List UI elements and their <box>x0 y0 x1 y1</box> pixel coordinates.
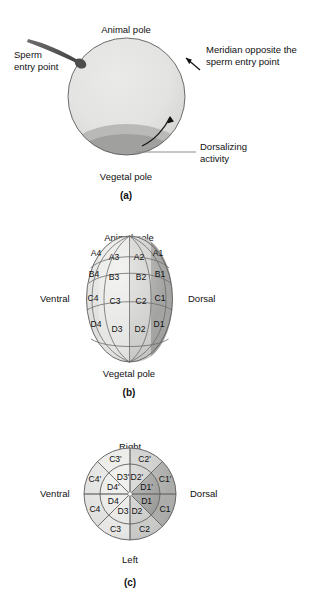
cell-label-c3p: C3' <box>109 454 122 464</box>
label-sperm-entry-line1: Sperm <box>14 49 42 60</box>
vegetal-view <box>84 448 176 540</box>
cell-label-c2: C2 <box>136 296 147 306</box>
cell-label-d3: D3 <box>112 324 123 334</box>
cell-label-a2: A2 <box>134 252 145 262</box>
cell-label-a3: A3 <box>109 252 120 262</box>
cell-label-b1: B1 <box>155 269 166 279</box>
label-sperm-entry-line2: entry point <box>14 61 59 72</box>
cell-label-d1: D1 <box>141 496 152 506</box>
cell-label-a1: A1 <box>153 248 164 258</box>
cell-label-d2: D2 <box>135 324 146 334</box>
cell-label-d3: D3 <box>118 506 129 516</box>
panel-b: Animal pole <box>40 232 215 398</box>
caption-a: (a) <box>120 190 132 201</box>
cell-label-d2: D2 <box>131 506 142 516</box>
cell-label-d1p: D1' <box>140 482 153 492</box>
cell-label-c1: C1 <box>155 293 166 303</box>
label-ventral-b: Ventral <box>40 293 70 304</box>
embryo-figure: Animal pole Vegetal pole Sperm entry poi… <box>0 0 332 601</box>
cell-label-c4: C4 <box>88 293 99 303</box>
panel-a: Animal pole Vegetal pole Sperm entry poi… <box>14 24 297 201</box>
label-vegetal-pole-b: Vegetal pole <box>103 368 155 379</box>
label-left-c: Left <box>122 554 138 565</box>
label-ventral-c: Ventral <box>40 488 70 499</box>
cell-label-c3: C3 <box>110 296 121 306</box>
cell-label-c4: C4 <box>89 504 100 514</box>
cell-label-c4p: C4' <box>89 474 102 484</box>
cell-label-d2p: D2' <box>131 472 144 482</box>
label-meridian-line1: Meridian opposite the <box>206 44 297 55</box>
label-dorsalizing-line1: Dorsalizing <box>200 141 247 152</box>
cell-label-a4: A4 <box>91 248 102 258</box>
cell-label-c1: C1 <box>160 504 171 514</box>
meridian-arrow-head <box>186 58 192 64</box>
cell-label-d4: D4 <box>108 496 119 506</box>
caption-b: (b) <box>123 387 136 398</box>
cell-label-c1p: C1' <box>159 474 172 484</box>
cell-label-c2: C2 <box>139 524 150 534</box>
cell-label-d4p: D4' <box>107 482 120 492</box>
label-animal-pole-a: Animal pole <box>101 24 151 35</box>
cell-label-d1: D1 <box>154 319 165 329</box>
caption-c: (c) <box>124 577 136 588</box>
label-dorsalizing-line2: activity <box>200 153 229 164</box>
label-vegetal-pole-a: Vegetal pole <box>100 171 152 182</box>
cell-label-b2: B2 <box>136 272 147 282</box>
figure-canvas: Animal pole Vegetal pole Sperm entry poi… <box>0 0 332 601</box>
center-point <box>128 492 132 496</box>
cell-label-b4: B4 <box>89 269 100 279</box>
label-dorsal-c: Dorsal <box>190 488 217 499</box>
cell-label-d3p: D3' <box>117 472 130 482</box>
cell-label-c2p: C2' <box>138 454 151 464</box>
panel-c: Right D1'D2'D3'D4'D4D3D2D1C1'C2'C3'C4'C4… <box>40 441 217 588</box>
label-meridian-line2: sperm entry point <box>206 56 280 67</box>
cell-label-c3: C3 <box>110 524 121 534</box>
cell-label-b3: B3 <box>109 272 120 282</box>
label-dorsal-b: Dorsal <box>188 293 215 304</box>
cell-label-d4: D4 <box>91 319 102 329</box>
